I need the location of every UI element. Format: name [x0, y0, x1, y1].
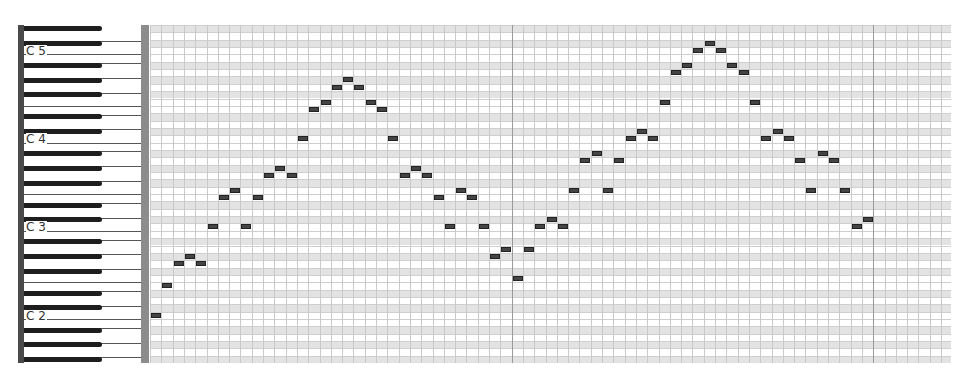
black-key[interactable]: [24, 342, 102, 347]
note-block[interactable]: [513, 276, 523, 281]
black-key[interactable]: [24, 328, 102, 333]
note-block[interactable]: [852, 224, 862, 229]
note-block[interactable]: [321, 100, 331, 105]
white-key-row[interactable]: [150, 260, 951, 267]
black-key-row[interactable]: [150, 128, 951, 135]
black-key[interactable]: [24, 166, 102, 171]
note-block[interactable]: [377, 107, 387, 112]
white-key-row[interactable]: [150, 297, 951, 304]
note-block[interactable]: [547, 217, 557, 222]
note-block[interactable]: [614, 158, 624, 163]
black-key[interactable]: [24, 92, 102, 97]
note-block[interactable]: [795, 158, 805, 163]
note-block[interactable]: [422, 173, 432, 178]
white-key-row[interactable]: [150, 209, 951, 216]
black-key-row[interactable]: [150, 113, 951, 120]
note-block[interactable]: [490, 254, 500, 259]
note-block[interactable]: [366, 100, 376, 105]
black-key-row[interactable]: [150, 25, 951, 32]
note-block[interactable]: [682, 63, 692, 68]
note-block[interactable]: [773, 129, 783, 134]
black-key-row[interactable]: [150, 150, 951, 157]
white-key-row[interactable]: [150, 143, 951, 150]
note-block[interactable]: [626, 136, 636, 141]
black-key-row[interactable]: [150, 304, 951, 311]
note-block[interactable]: [727, 63, 737, 68]
note-block[interactable]: [603, 188, 613, 193]
note-block[interactable]: [648, 136, 658, 141]
note-block[interactable]: [298, 136, 308, 141]
note-block[interactable]: [750, 100, 760, 105]
black-key-row[interactable]: [150, 326, 951, 333]
note-block[interactable]: [411, 166, 421, 171]
white-key-row[interactable]: [150, 334, 951, 341]
note-block[interactable]: [739, 70, 749, 75]
note-block[interactable]: [818, 151, 828, 156]
black-key-row[interactable]: [150, 91, 951, 98]
note-block[interactable]: [637, 129, 647, 134]
note-block[interactable]: [354, 85, 364, 90]
white-key-row[interactable]: [150, 275, 951, 282]
black-key[interactable]: [24, 78, 102, 83]
black-key[interactable]: [24, 114, 102, 119]
note-block[interactable]: [456, 188, 466, 193]
white-key-row[interactable]: [150, 312, 951, 319]
white-key-row[interactable]: [150, 99, 951, 106]
black-key-row[interactable]: [150, 201, 951, 208]
white-key-row[interactable]: [150, 106, 951, 113]
black-key[interactable]: [24, 254, 102, 259]
note-block[interactable]: [569, 188, 579, 193]
note-block[interactable]: [784, 136, 794, 141]
note-block[interactable]: [264, 173, 274, 178]
note-block[interactable]: [524, 247, 534, 252]
note-grid[interactable]: [150, 25, 951, 363]
note-block[interactable]: [467, 195, 477, 200]
black-key[interactable]: [24, 269, 102, 274]
black-key-row[interactable]: [150, 290, 951, 297]
note-block[interactable]: [185, 254, 195, 259]
black-key-row[interactable]: [150, 76, 951, 83]
white-key-row[interactable]: [150, 32, 951, 39]
note-block[interactable]: [806, 188, 816, 193]
note-block[interactable]: [558, 224, 568, 229]
black-key[interactable]: [24, 63, 102, 68]
note-block[interactable]: [592, 151, 602, 156]
black-key-row[interactable]: [150, 253, 951, 260]
note-block[interactable]: [761, 136, 771, 141]
black-key[interactable]: [24, 26, 102, 31]
white-key-row[interactable]: [150, 223, 951, 230]
note-block[interactable]: [309, 107, 319, 112]
note-block[interactable]: [580, 158, 590, 163]
note-block[interactable]: [343, 77, 353, 82]
note-block[interactable]: [445, 224, 455, 229]
piano-keyboard[interactable]: C 5C 4C 3C 2: [18, 25, 149, 363]
note-block[interactable]: [151, 313, 161, 318]
black-key[interactable]: [24, 357, 102, 362]
note-block[interactable]: [241, 224, 251, 229]
white-key-row[interactable]: [150, 54, 951, 61]
white-key-row[interactable]: [150, 69, 951, 76]
note-block[interactable]: [716, 48, 726, 53]
keyboard-divider[interactable]: [141, 25, 149, 363]
note-block[interactable]: [162, 283, 172, 288]
black-key[interactable]: [24, 181, 102, 186]
black-key-row[interactable]: [150, 268, 951, 275]
white-key-row[interactable]: [150, 187, 951, 194]
white-key-row[interactable]: [150, 319, 951, 326]
black-key[interactable]: [24, 203, 102, 208]
note-block[interactable]: [230, 188, 240, 193]
black-key[interactable]: [24, 151, 102, 156]
black-key-row[interactable]: [150, 341, 951, 348]
black-key[interactable]: [24, 239, 102, 244]
note-block[interactable]: [174, 261, 184, 266]
white-key-row[interactable]: [150, 282, 951, 289]
note-block[interactable]: [479, 224, 489, 229]
note-block[interactable]: [705, 41, 715, 46]
note-block[interactable]: [332, 85, 342, 90]
black-key-row[interactable]: [150, 62, 951, 69]
black-key-row[interactable]: [150, 40, 951, 47]
note-block[interactable]: [208, 224, 218, 229]
note-block[interactable]: [829, 158, 839, 163]
note-block[interactable]: [253, 195, 263, 200]
note-block[interactable]: [671, 70, 681, 75]
